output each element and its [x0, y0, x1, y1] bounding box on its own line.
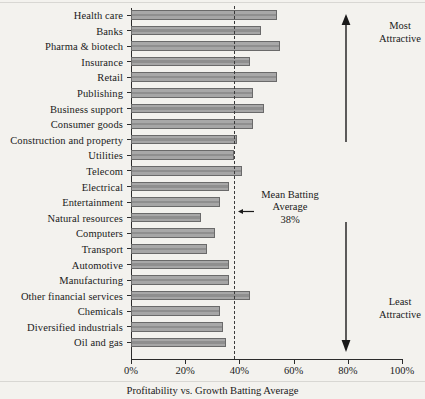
bar-row [131, 258, 402, 274]
category-label: Utilities [0, 148, 128, 164]
category-label: Oil and gas [0, 335, 128, 351]
top-divider [0, 2, 425, 3]
bar-row [131, 242, 402, 258]
bar [131, 244, 207, 254]
x-axis-tick-label: 60% [274, 365, 314, 376]
bar [131, 260, 229, 270]
category-label: Pharma & biotech [0, 39, 128, 55]
bar [131, 306, 220, 316]
category-label: Computers [0, 226, 128, 242]
category-label: Other financial services [0, 289, 128, 305]
most-attractive-line1: Most [352, 20, 425, 33]
category-label: Natural resources [0, 211, 128, 227]
bar-row [131, 273, 402, 289]
bar [131, 26, 261, 36]
mean-annotation-line1: Mean Batting [255, 189, 325, 201]
x-axis-line [131, 359, 403, 360]
bar-row [131, 226, 402, 242]
least-attractive-label: Least Attractive [352, 296, 425, 321]
bar-row [131, 148, 402, 164]
category-label: Automotive [0, 258, 128, 274]
category-label: Manufacturing [0, 273, 128, 289]
bar [131, 338, 226, 348]
bar [131, 150, 234, 160]
bar [131, 135, 237, 145]
bar-row [131, 320, 402, 336]
bar [131, 322, 223, 332]
chart-caption: Profitability vs. Growth Batting Average [0, 385, 425, 396]
x-axis-tick [294, 359, 295, 364]
bar-chart: Health careBanksPharma & biotechInsuranc… [0, 0, 425, 399]
category-label: Insurance [0, 55, 128, 71]
least-attractive-arrow-icon [340, 222, 352, 352]
category-label: Business support [0, 102, 128, 118]
x-axis-tick-label: 100% [382, 365, 422, 376]
category-axis-labels: Health careBanksPharma & biotechInsuranc… [0, 8, 128, 351]
bar [131, 275, 229, 285]
most-attractive-line2: Attractive [352, 33, 425, 46]
x-axis-tick [185, 359, 186, 364]
bottom-divider [0, 381, 425, 382]
bar [131, 166, 242, 176]
bar-row [131, 102, 402, 118]
category-label: Health care [0, 8, 128, 24]
category-label: Retail [0, 70, 128, 86]
mean-annotation-line2: Average [255, 201, 325, 213]
bar-row [131, 70, 402, 86]
bar-row [131, 55, 402, 71]
category-label: Telecom [0, 164, 128, 180]
category-label: Publishing [0, 86, 128, 102]
bar [131, 10, 277, 20]
mean-annotation-line3: 38% [255, 214, 325, 226]
x-axis-tick-label: 80% [328, 365, 368, 376]
bar [131, 72, 277, 82]
category-label: Consumer goods [0, 117, 128, 133]
x-axis-tick-label: 20% [165, 365, 205, 376]
bar-row [131, 164, 402, 180]
x-axis-tick [239, 359, 240, 364]
bar-row [131, 133, 402, 149]
category-label: Chemicals [0, 304, 128, 320]
category-label: Electrical [0, 180, 128, 196]
bar [131, 182, 229, 192]
bar-row [131, 335, 402, 351]
most-attractive-label: Most Attractive [352, 20, 425, 45]
bar-row [131, 117, 402, 133]
category-label: Entertainment [0, 195, 128, 211]
bar [131, 228, 215, 238]
least-attractive-line2: Attractive [352, 309, 425, 322]
bar-row [131, 86, 402, 102]
x-axis-tick [348, 359, 349, 364]
mean-annotation: Mean Batting Average 38% [255, 189, 325, 226]
most-attractive-arrow-icon [340, 14, 352, 144]
category-label: Diversified industrials [0, 320, 128, 336]
bar [131, 213, 201, 223]
x-axis-tick-label: 40% [219, 365, 259, 376]
category-label: Banks [0, 24, 128, 40]
bar [131, 104, 264, 114]
x-axis-tick [131, 359, 132, 364]
category-label: Transport [0, 242, 128, 258]
category-label: Construction and property [0, 133, 128, 149]
least-attractive-line1: Least [352, 296, 425, 309]
bar [131, 291, 250, 301]
x-axis-tick-label: 0% [111, 365, 151, 376]
bar [131, 197, 220, 207]
mean-arrow-icon [238, 207, 254, 216]
bar [131, 41, 280, 51]
mean-reference-line [234, 6, 235, 359]
x-axis-tick [402, 359, 403, 364]
bar [131, 57, 250, 67]
